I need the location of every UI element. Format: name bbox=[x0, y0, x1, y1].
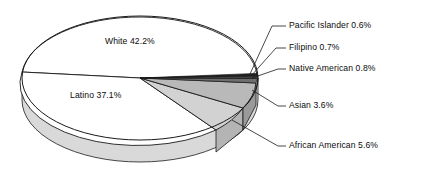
slice-label-white: White 42.2% bbox=[105, 36, 155, 46]
callout-label-african-american: African American 5.6% bbox=[289, 140, 378, 150]
slice-label-latino: Latino 37.1% bbox=[70, 90, 121, 100]
pie-slice-white bbox=[22, 17, 257, 78]
callout-label-asian: Asian 3.6% bbox=[289, 100, 333, 110]
callout-label-filipino: Filipino 0.7% bbox=[289, 42, 340, 52]
pie-chart-figure: White 42.2% Latino 37.1% Pacific Islande… bbox=[0, 0, 422, 169]
callout-label-native-american: Native American 0.8% bbox=[289, 63, 376, 73]
callout-label-pacific-islander: Pacific Islander 0.6% bbox=[289, 20, 371, 30]
